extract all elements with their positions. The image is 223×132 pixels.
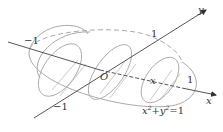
label-x-axis: x — [206, 95, 212, 106]
label-origin: O — [100, 71, 108, 82]
label-section-x: x — [150, 75, 156, 86]
label-one-top: 1 — [151, 28, 157, 39]
base-equation: x2+y2=1 — [142, 104, 184, 116]
label-one-right: 1 — [187, 74, 193, 85]
solid-diagram: −1 −1 1 1 y x O x x2+y2=1 — [0, 0, 223, 132]
label-neg-one-left: −1 — [24, 35, 39, 46]
label-neg-one-bottom: −1 — [53, 101, 68, 112]
label-y-axis: y — [197, 4, 204, 15]
